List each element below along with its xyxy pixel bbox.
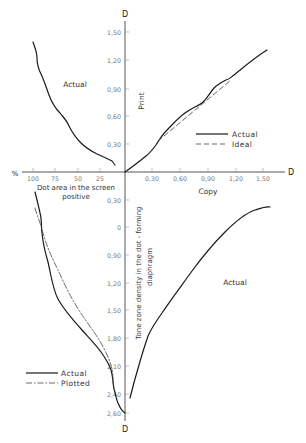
axis-title-dot-area-line1: Dot area in the screen	[37, 184, 115, 192]
tick-labels-left: 100 75 50 25	[27, 175, 104, 182]
annotation-actual-lower-right: Actual	[223, 278, 247, 287]
axis-right-d-label: D	[288, 168, 294, 177]
axis-left-percent-label: %	[12, 170, 19, 178]
tick-up-2: 0,90	[107, 86, 121, 93]
tick-marks	[33, 32, 263, 413]
tick-down-7: 2,40	[107, 391, 121, 398]
axis-title-dot-area-line2: positive	[62, 193, 89, 201]
tick-labels-right: 0,30 0,60 0,90 1,20 1,50	[145, 175, 270, 182]
tick-labels-up: 1,50 1,20 0,90 0,60 0,30	[107, 29, 121, 148]
tick-down-0: 0,30	[107, 197, 121, 204]
curve-print-vs-copy-actual	[125, 50, 267, 172]
tick-down-8: 2,60	[107, 410, 121, 417]
tick-down-5: 1,80	[107, 335, 121, 342]
curves	[33, 42, 270, 413]
axis-title-tone-zone-line1: Tone zone density in the dot - forming	[135, 206, 143, 340]
curve-print-vs-copy-ideal	[158, 80, 231, 141]
tick-up-0: 1,50	[107, 29, 121, 36]
axes	[22, 21, 285, 421]
legend-label-ideal: Ideal	[232, 140, 252, 149]
tick-down-2: 0,90	[107, 252, 121, 259]
tick-left-2: 50	[74, 175, 82, 182]
tick-right-4: 1,50	[256, 175, 270, 182]
tick-down-1: 0	[117, 224, 121, 231]
legend-print-vs-copy: Actual Ideal	[196, 130, 258, 149]
tick-right-3: 1,20	[229, 175, 243, 182]
legend-label-actual: Actual	[232, 130, 258, 139]
curve-print-vs-dot-area-actual	[33, 42, 115, 165]
curve-diaphragm-vs-dot-area-plotted	[35, 208, 113, 385]
legend-diaphragm-vs-dot-area: Actual Plotted	[26, 369, 90, 388]
axis-top-d-label: D	[122, 10, 128, 19]
tick-left-0: 100	[27, 175, 39, 182]
tick-up-3: 0,60	[107, 113, 121, 120]
legend-label-plotted: Plotted	[61, 379, 90, 388]
axis-title-print: Print	[137, 92, 146, 109]
annotation-actual-upper-left: Actual	[63, 80, 87, 89]
axis-title-copy: Copy	[198, 187, 218, 196]
tick-right-2: 0,90	[201, 175, 215, 182]
tick-up-1: 1,20	[107, 57, 121, 64]
curve-diaphragm-vs-copy-actual	[130, 207, 270, 398]
axis-title-tone-zone-line2: diaphragm	[146, 248, 154, 286]
tick-left-1: 75	[51, 175, 59, 182]
axis-bottom-d-label: D	[122, 425, 128, 434]
legend-label-actual: Actual	[61, 369, 87, 378]
tick-left-3: 25	[96, 175, 104, 182]
tone-reproduction-chart: 1,50 1,20 0,90 0,60 0,30 100 75 50 25 0,…	[0, 0, 306, 443]
tick-up-4: 0,30	[107, 141, 121, 148]
tick-down-4: 1,50	[107, 307, 121, 314]
tick-labels-down: 0,30 0 0,90 1,20 1,50 1,80 2,10 2,40 2,6…	[107, 197, 121, 417]
tick-right-0: 0,30	[145, 175, 159, 182]
tick-right-1: 0,60	[173, 175, 187, 182]
tick-down-3: 1,20	[107, 280, 121, 287]
